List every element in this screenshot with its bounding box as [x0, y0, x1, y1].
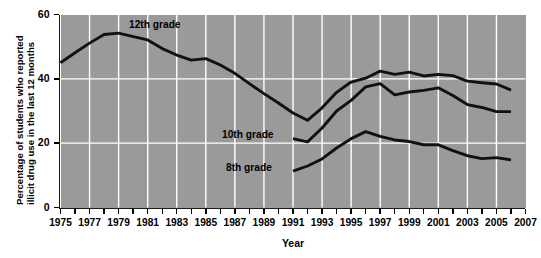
x-tick-mark	[89, 209, 90, 214]
x-tick-label: 1989	[253, 217, 276, 228]
x-tick-label: 1991	[282, 217, 305, 228]
x-tick-label: 1979	[107, 217, 130, 228]
x-tick-mark	[162, 209, 163, 214]
x-tick-mark	[278, 209, 279, 214]
y-tick-label: 40	[28, 72, 50, 84]
x-tick-label: 1983	[165, 217, 188, 228]
x-tick-label: 1997	[369, 217, 392, 228]
x-tick-label: 1981	[136, 217, 159, 228]
x-tick-mark	[74, 209, 75, 214]
x-tick-mark	[205, 209, 206, 214]
y-tick-mark	[54, 142, 59, 144]
x-tick-mark	[496, 209, 497, 214]
x-tick-mark	[336, 209, 337, 214]
y-tick-mark	[54, 14, 59, 16]
y-tick-mark	[54, 78, 59, 80]
chart-figure: Percentage of students who reported illi…	[0, 0, 541, 258]
x-tick-mark	[263, 209, 264, 214]
x-tick-mark	[525, 209, 526, 214]
x-tick-mark	[60, 209, 61, 214]
x-tick-mark	[423, 209, 424, 214]
y-tick-label: 60	[28, 8, 50, 20]
x-axis-title: Year	[282, 237, 304, 249]
x-tick-mark	[176, 209, 177, 214]
x-tick-mark	[147, 209, 148, 214]
x-tick-mark	[292, 209, 293, 214]
y-axis-title-line-2: illicit drug use in the last 12 months	[25, 42, 36, 205]
x-tick-mark	[249, 209, 250, 214]
x-tick-mark	[234, 209, 235, 214]
x-tick-mark	[452, 209, 453, 214]
x-tick-mark	[510, 209, 511, 214]
x-tick-mark	[103, 209, 104, 214]
x-tick-mark	[394, 209, 395, 214]
x-tick-mark	[365, 209, 366, 214]
x-tick-mark	[220, 209, 221, 214]
x-tick-mark	[467, 209, 468, 214]
x-tick-mark	[321, 209, 322, 214]
x-tick-label: 1975	[49, 217, 72, 228]
x-tick-mark	[307, 209, 308, 214]
x-tick-mark	[481, 209, 482, 214]
x-tick-label: 1977	[78, 217, 101, 228]
x-tick-label: 2001	[427, 217, 450, 228]
y-axis-title-line-1: Percentage of students who reported	[14, 35, 25, 205]
x-tick-label: 1985	[194, 217, 217, 228]
x-tick-label: 2003	[456, 217, 479, 228]
y-axis-title: Percentage of students who reported illi…	[0, 0, 36, 210]
x-tick-label: 1987	[224, 217, 247, 228]
x-tick-mark	[191, 209, 192, 214]
y-tick-label: 20	[28, 136, 50, 148]
x-tick-label: 2007	[514, 217, 537, 228]
x-tick-mark	[350, 209, 351, 214]
y-tick-label: 0	[28, 201, 50, 213]
x-tick-mark	[132, 209, 133, 214]
x-tick-mark	[409, 209, 410, 214]
x-tick-mark	[438, 209, 439, 214]
series-label-10th-grade: 10th grade	[222, 129, 274, 140]
plot-area-background	[61, 15, 526, 208]
x-tick-label: 1999	[398, 217, 421, 228]
y-tick-mark	[54, 207, 59, 209]
series-label-8th-grade: 8th grade	[226, 162, 272, 173]
x-tick-mark	[379, 209, 380, 214]
x-tick-label: 2005	[485, 217, 508, 228]
x-tick-mark	[118, 209, 119, 214]
series-label-12th-grade: 12th grade	[129, 19, 181, 30]
y-axis-line	[59, 15, 61, 210]
x-tick-label: 1995	[340, 217, 363, 228]
x-tick-label: 1993	[311, 217, 334, 228]
